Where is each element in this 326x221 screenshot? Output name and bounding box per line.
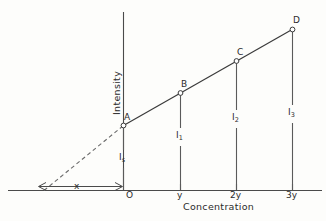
y-axis-title: Intensity: [111, 71, 122, 115]
intensity-is-sub: s: [122, 156, 125, 164]
intensity-label-i2: I2: [232, 113, 239, 122]
intensity-label-i3: I3: [288, 108, 295, 117]
point-marker-d: [290, 27, 295, 32]
x-axis-title: Concentration: [183, 201, 254, 212]
standard-addition-plot: Intensity Concentration O y 2y 3y A B C …: [0, 0, 326, 221]
intensity-i1-sub: 1: [179, 134, 183, 142]
calibration-line: [124, 29, 294, 126]
origin-label: O: [126, 191, 133, 200]
extrapolation-dashed-line: [44, 126, 124, 191]
point-label-a: A: [124, 113, 130, 122]
x-tick-label-2y: 2y: [230, 191, 241, 200]
plot-canvas: [0, 0, 326, 221]
x-tick-label-y: y: [177, 191, 182, 200]
point-label-b: B: [181, 80, 187, 89]
point-marker-c: [234, 59, 239, 64]
point-label-d: D: [293, 16, 300, 25]
intensity-i2-sub: 2: [235, 116, 239, 124]
intensity-i3-sub: 3: [291, 111, 295, 119]
x-distance-label: x: [74, 182, 79, 191]
point-marker-b: [178, 91, 183, 96]
intensity-label-i1: I1: [176, 131, 183, 140]
x-tick-label-3y: 3y: [286, 191, 297, 200]
intensity-label-is: Is: [119, 153, 125, 162]
point-label-c: C: [237, 48, 243, 57]
point-marker-a: [121, 123, 126, 128]
